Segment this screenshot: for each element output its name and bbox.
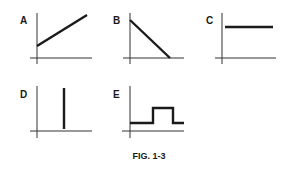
panel-b: B — [113, 13, 184, 64]
panel-label-e: E — [113, 89, 120, 100]
panel-a: A — [20, 13, 92, 64]
curve-b — [130, 20, 170, 58]
panel-label-b: B — [113, 15, 120, 26]
panel-c: C — [206, 13, 276, 64]
panel-label-c: C — [206, 15, 213, 26]
panel-label-a: A — [20, 15, 27, 26]
figure-1-3: A B C D E FIG. 1-3 — [0, 0, 291, 171]
panel-label-d: D — [20, 89, 27, 100]
panel-e: E — [113, 86, 184, 138]
curve-a — [37, 15, 87, 46]
figure-caption: FIG. 1-3 — [132, 151, 165, 161]
panel-d: D — [20, 86, 92, 138]
curve-e — [130, 108, 184, 123]
